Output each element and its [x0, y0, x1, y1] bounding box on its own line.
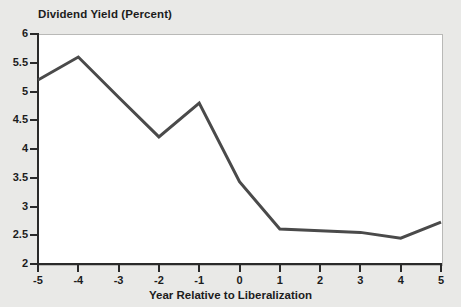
- x-tick--3: [118, 264, 120, 272]
- x-tick-label--2: -2: [139, 274, 179, 286]
- x-tick-label--4: -4: [58, 274, 98, 286]
- x-tick-label-0: 0: [220, 274, 260, 286]
- x-tick--2: [158, 264, 160, 272]
- x-tick-3: [359, 264, 361, 272]
- y-tick-label-4.5: 4.5: [13, 113, 28, 125]
- y-tick-label-2: 2: [22, 257, 28, 269]
- y-tick-3: [30, 206, 38, 208]
- chart-figure: Dividend Yield (Percent) 22.533.544.555.…: [0, 0, 461, 307]
- y-tick-label-3: 3: [22, 200, 28, 212]
- y-tick-5.5: [30, 62, 38, 64]
- x-tick-label-3: 3: [340, 274, 380, 286]
- x-tick-label-4: 4: [381, 274, 421, 286]
- x-tick-label--3: -3: [99, 274, 139, 286]
- x-tick-label--1: -1: [179, 274, 219, 286]
- plot-area: [38, 34, 443, 266]
- y-tick-2.5: [30, 234, 38, 236]
- y-tick-label-6: 6: [22, 27, 28, 39]
- y-tick-label-5.5: 5.5: [13, 56, 28, 68]
- x-tick-label-5: 5: [421, 274, 461, 286]
- y-tick-label-4: 4: [22, 142, 28, 154]
- y-tick-4: [30, 148, 38, 150]
- y-tick-label-5: 5: [22, 85, 28, 97]
- chart-title: Dividend Yield (Percent): [38, 8, 172, 20]
- x-axis-label: Year Relative to Liberalization: [0, 289, 461, 301]
- x-tick-1: [279, 264, 281, 272]
- x-tick-label-2: 2: [300, 274, 340, 286]
- x-tick-0: [239, 264, 241, 272]
- y-tick-3.5: [30, 177, 38, 179]
- y-tick-label-3.5: 3.5: [13, 171, 28, 183]
- x-tick-2: [319, 264, 321, 272]
- x-tick--5: [37, 264, 39, 272]
- x-tick--4: [77, 264, 79, 272]
- x-tick--1: [198, 264, 200, 272]
- x-tick-5: [440, 264, 442, 272]
- y-tick-4.5: [30, 119, 38, 121]
- x-tick-label-1: 1: [260, 274, 300, 286]
- x-tick-4: [400, 264, 402, 272]
- y-tick-label-2.5: 2.5: [13, 228, 28, 240]
- x-tick-label--5: -5: [18, 274, 58, 286]
- y-tick-6: [30, 33, 38, 35]
- y-tick-5: [30, 91, 38, 93]
